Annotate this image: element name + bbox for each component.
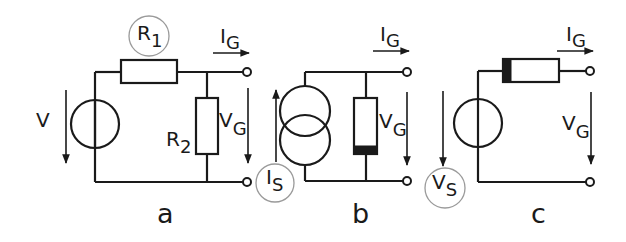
output-current-label: IG: [566, 22, 586, 51]
output-current-label: IG: [220, 24, 240, 53]
circuit-c: VS IG VG c: [425, 22, 594, 229]
source-voltage-label: VS: [432, 170, 457, 200]
output-voltage-label: VG: [379, 109, 407, 140]
terminal-bottom: [403, 177, 411, 185]
source-current-label: IS: [266, 165, 283, 195]
caption-a: a: [157, 198, 174, 229]
source-voltage-label: V: [36, 108, 50, 132]
output-voltage-label: VG: [562, 111, 590, 142]
r1-label: R1: [137, 21, 162, 51]
caption-b: b: [352, 198, 369, 229]
output-current-label: IG: [380, 22, 400, 51]
caption-c: c: [531, 198, 546, 229]
circuit-b: IS IG VG b: [256, 22, 411, 229]
resistor-r2: [196, 98, 218, 154]
terminal-bottom: [586, 178, 594, 186]
current-source-symbol: [280, 86, 330, 165]
terminal-bottom: [243, 178, 251, 186]
resistor-r1: [121, 60, 177, 83]
circuit-a: V R1 R2 IG VG a: [36, 16, 251, 229]
resistor-band: [503, 59, 511, 82]
resistor-band: [354, 146, 377, 154]
r2-label: R2: [166, 127, 191, 157]
terminal-top: [243, 68, 251, 76]
terminal-top: [586, 67, 594, 75]
circuit-diagram: V R1 R2 IG VG a: [0, 0, 626, 242]
terminal-top: [403, 68, 411, 76]
output-voltage-label: VG: [219, 108, 247, 139]
